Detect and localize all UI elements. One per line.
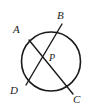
geometry-figure: A B P D C (0, 0, 93, 111)
vertex-label-b: B (57, 10, 64, 21)
vertex-label-c: C (73, 94, 80, 105)
vertex-label-p: P (49, 52, 55, 63)
vertex-label-d: D (10, 85, 18, 96)
vertex-label-a: A (13, 24, 20, 35)
